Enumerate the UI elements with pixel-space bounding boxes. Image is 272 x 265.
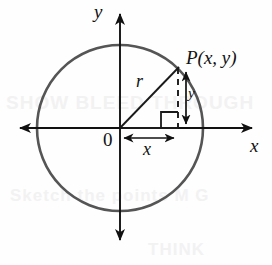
radius-segment bbox=[120, 67, 179, 128]
horizontal-leg-label: x bbox=[143, 140, 151, 158]
diagram-canvas bbox=[0, 0, 272, 265]
origin-label: 0 bbox=[103, 130, 113, 149]
radius-label: r bbox=[136, 72, 143, 90]
right-angle-marker bbox=[161, 112, 178, 128]
x-axis-label: x bbox=[250, 136, 258, 155]
y-axis-label: y bbox=[94, 2, 102, 21]
point-p-label: P(x, y) bbox=[186, 48, 237, 67]
unit-circle-figure: SHOW BLEED THROUGH Sketch the points M G… bbox=[0, 0, 272, 265]
vertical-leg-label: y bbox=[188, 86, 195, 101]
